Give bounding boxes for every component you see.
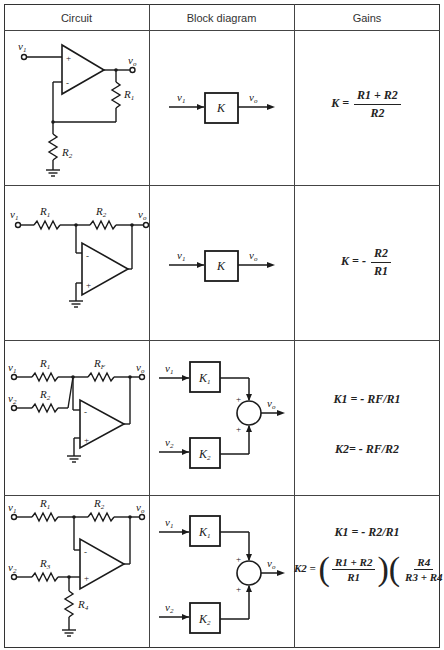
svg-text:R1: R1 (39, 205, 50, 219)
svg-text:R2: R2 (95, 205, 107, 219)
svg-text:-: - (86, 251, 89, 261)
input-terminal-icon (22, 55, 27, 60)
svg-text:+: + (66, 53, 71, 63)
svg-text:+: + (236, 554, 241, 564)
svg-text:v1: v1 (8, 361, 16, 375)
svg-text:vo: vo (128, 54, 137, 68)
svg-text:R1: R1 (39, 497, 50, 511)
inverting-amplifier-schematic: v1 vo R1 R2 - + (4, 185, 149, 340)
svg-text:+: + (236, 424, 241, 434)
header-block-diagram: Block diagram (149, 8, 294, 28)
svg-text:v1: v1 (165, 516, 173, 530)
resistor-icon (65, 591, 73, 617)
svg-text:-: - (84, 407, 87, 417)
svg-text:v1: v1 (18, 40, 26, 54)
svg-text:vo: vo (267, 397, 276, 411)
inverting-summer-schematic: v1 v2 vo R1 R2 RF - + (4, 340, 149, 495)
row4-circuit: v1 v2 vo R1 R2 R3 R4 - + (4, 495, 149, 648)
svg-text:R2: R2 (39, 388, 51, 402)
svg-text:v1: v1 (165, 362, 173, 376)
non-inverting-amplifier-schematic: v1 vo R1 R2 + - (4, 30, 149, 185)
svg-text:K2: K2 (198, 447, 211, 462)
svg-text:vo: vo (267, 557, 276, 571)
arrow-icon (197, 104, 204, 110)
block-label: K (216, 101, 226, 115)
summing-junction-icon (237, 561, 261, 585)
resistor-icon (88, 513, 114, 521)
row2-block-diagram: v1 vo K (149, 185, 294, 340)
svg-text:v1: v1 (177, 91, 185, 105)
resistor-icon (32, 404, 58, 412)
summing-junction-icon (237, 401, 261, 425)
row1-circuit: v1 vo R1 R2 + - (4, 30, 149, 185)
svg-text:K1: K1 (198, 371, 211, 386)
svg-text:+: + (84, 573, 89, 583)
resistor-icon (49, 134, 57, 160)
difference-amplifier-schematic: v1 v2 vo R1 R2 R3 R4 - + (4, 495, 149, 648)
svg-text:+: + (236, 584, 241, 594)
svg-text:v2: v2 (165, 601, 174, 615)
svg-text:-: - (84, 547, 87, 557)
svg-text:vo: vo (136, 501, 145, 515)
svg-text:v2: v2 (8, 392, 17, 406)
arrow-icon (267, 104, 275, 110)
svg-text:K2: K2 (198, 612, 211, 627)
svg-text:+: + (236, 394, 241, 404)
svg-text:R1: R1 (123, 88, 134, 102)
output-terminal-icon (130, 68, 135, 73)
resistor-icon (112, 82, 120, 108)
resistor-icon (34, 221, 60, 229)
row1-block-diagram: v1 vo K (149, 30, 294, 185)
svg-text:R2: R2 (61, 146, 73, 160)
svg-text:-: - (66, 78, 69, 88)
row1-gain-formula: K = R1 + R2R2 (294, 88, 440, 121)
header-circuit: Circuit (4, 8, 149, 28)
row2-gain-formula: K = - R2R1 (294, 246, 440, 279)
svg-text:R4: R4 (77, 598, 89, 612)
row4-gain-k1: K1 = - R2/R1 (294, 525, 440, 540)
row3-gain-k2: K2= - RF/R2 (294, 442, 440, 457)
svg-text:+: + (84, 435, 89, 445)
row3-block-diagram: v1 v2 vo K1 K2 + + (149, 340, 294, 495)
svg-text:vo: vo (249, 91, 258, 105)
resistor-icon (32, 373, 58, 381)
resistor-icon (32, 573, 58, 581)
resistor-icon (88, 373, 114, 381)
row3-gain-k1: K1 = - RF/R1 (294, 392, 440, 407)
svg-text:+: + (86, 280, 91, 290)
row2-circuit: v1 vo R1 R2 - + (4, 185, 149, 340)
svg-text:v1: v1 (177, 249, 185, 263)
svg-text:K1: K1 (198, 525, 211, 540)
svg-text:v1: v1 (10, 208, 18, 222)
svg-text:vo: vo (249, 249, 258, 263)
svg-text:vo: vo (138, 208, 147, 222)
svg-text:R1: R1 (39, 357, 50, 371)
resistor-icon (90, 221, 116, 229)
svg-text:v1: v1 (8, 501, 16, 515)
header-gains: Gains (294, 8, 440, 28)
svg-text:R2: R2 (93, 497, 105, 511)
row4-block-diagram: v1 v2 vo K1 K2 + + (149, 495, 294, 648)
svg-text:v2: v2 (165, 436, 174, 450)
svg-text:K: K (216, 259, 226, 273)
row3-circuit: v1 v2 vo R1 R2 RF - + (4, 340, 149, 495)
svg-text:vo: vo (136, 361, 145, 375)
svg-text:v2: v2 (8, 561, 17, 575)
svg-text:R3: R3 (39, 557, 51, 571)
svg-text:RF: RF (93, 357, 106, 371)
resistor-icon (32, 513, 58, 521)
row4-gain-k2: K2 = (R1 + R2R1)(R4R3 + R4) (294, 552, 440, 586)
